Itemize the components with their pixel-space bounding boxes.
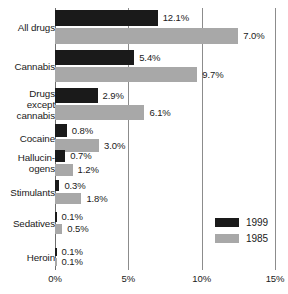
bar-value-label-1999: 5.4% (139, 52, 160, 63)
bar-value-label-1999: 0.7% (70, 150, 91, 161)
bar-value-label-1999: 0.1% (62, 211, 83, 222)
category-label: Sedatives (13, 218, 55, 229)
bar-value-label-1999: 2.9% (103, 90, 124, 101)
bar-value-label-1985: 3.0% (104, 140, 125, 151)
legend-swatch-1985 (215, 234, 239, 243)
category-label: Cannabis (14, 61, 55, 72)
bar-value-label-1985: 7.0% (243, 30, 264, 41)
plot-area: 0%5%10%15% All drugsCannabisDrugs except… (0, 0, 288, 294)
bar-1999 (55, 88, 98, 103)
x-tick-label: 5% (122, 273, 136, 284)
bar-1999 (55, 50, 134, 65)
grouped-bar-chart: 0%5%10%15% All drugsCannabisDrugs except… (0, 0, 288, 294)
x-tick-label: 0% (48, 273, 62, 284)
category-label: Hallucin- ogens (18, 152, 55, 174)
bar-value-label-1985: 6.1% (149, 107, 170, 118)
bar-value-label-1985: 1.8% (86, 193, 107, 204)
bar-value-label-1985: 0.5% (67, 223, 88, 234)
gridline-5 (128, 8, 129, 270)
legend-label-1999: 1999 (246, 217, 268, 228)
legend-item-1985: 1985 (215, 232, 277, 245)
category-label: Heroin (27, 252, 55, 263)
bar-1985 (55, 258, 57, 266)
legend-label-1985: 1985 (246, 233, 268, 244)
category-label: Cocaine (20, 133, 55, 144)
gridline-10 (202, 8, 203, 270)
bar-value-label-1985: 9.7% (202, 69, 223, 80)
x-tick-label: 15% (266, 273, 285, 284)
bar-value-label-1999: 0.8% (72, 125, 93, 136)
bar-value-label-1999: 0.3% (64, 180, 85, 191)
legend: 1999 1985 (215, 216, 277, 248)
category-label: All drugs (18, 22, 55, 33)
bar-1999 (55, 124, 67, 137)
legend-swatch-1999 (215, 218, 239, 227)
bar-1985 (55, 193, 81, 204)
bar-1999 (55, 180, 59, 191)
bar-1999 (55, 248, 57, 256)
bar-1985 (55, 105, 144, 120)
legend-item-1999: 1999 (215, 216, 277, 229)
bar-1999 (55, 212, 57, 222)
bar-1985 (55, 67, 197, 82)
category-label: Drugs except cannabis (17, 88, 55, 121)
bar-1985 (55, 164, 73, 176)
bar-value-label-1985: 1.2% (78, 164, 99, 175)
bar-1999 (55, 150, 65, 162)
category-label: Stimulants (10, 187, 55, 198)
bar-1985 (55, 28, 238, 44)
bar-1999 (55, 10, 158, 26)
x-tick-label: 10% (192, 273, 211, 284)
bar-value-label-1999: 12.1% (163, 12, 189, 23)
bar-value-label-1985: 0.1% (62, 256, 83, 267)
bar-1985 (55, 224, 62, 234)
